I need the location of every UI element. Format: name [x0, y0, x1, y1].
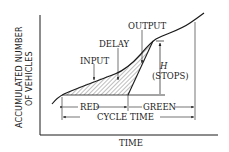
- label-delay: DELAY: [99, 39, 129, 49]
- label-stops: (STOPS): [152, 71, 189, 81]
- label-red: RED: [80, 102, 100, 112]
- y-axis-label-line2: OF VEHICLES: [25, 51, 34, 106]
- y-axis-label-line1: ACCUMULATED NUMBER: [15, 26, 24, 128]
- label-output: OUTPUT: [128, 21, 167, 31]
- x-axis-label: TIME: [119, 138, 143, 148]
- label-input: INPUT: [80, 56, 110, 66]
- queueing-diagram: OUTPUT DELAY INPUT H (STOPS) RED GREEN C…: [0, 0, 229, 152]
- label-h: H: [159, 61, 168, 71]
- label-green: GREEN: [143, 102, 177, 112]
- label-cycle-time: CYCLE TIME: [97, 112, 154, 122]
